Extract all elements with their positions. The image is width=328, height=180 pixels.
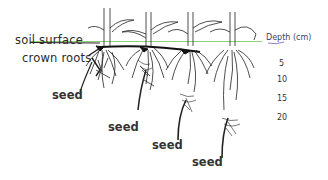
plant-3: [166, 12, 222, 140]
soil-surface-label: soil surface: [15, 33, 83, 47]
depth-axis-title: Depth (cm): [266, 33, 311, 42]
crown-roots-arrow: [88, 46, 200, 56]
depth-value-10: 10: [277, 75, 287, 84]
seed-label-4: seed: [192, 155, 223, 169]
seed-label-1: seed: [52, 88, 83, 102]
seed-label-2: seed: [108, 120, 139, 134]
depth-value-20: 20: [277, 113, 287, 122]
depth-underline: [268, 42, 284, 44]
plant-4: [206, 12, 256, 158]
depth-value-15: 15: [277, 94, 287, 103]
seed-label-3: seed: [152, 138, 183, 152]
plant-1: [86, 8, 134, 88]
depth-value-5: 5: [279, 59, 284, 68]
diagram-canvas: [0, 0, 328, 180]
plant-2: [122, 12, 178, 110]
crown-roots-label: crown roots: [22, 51, 91, 65]
